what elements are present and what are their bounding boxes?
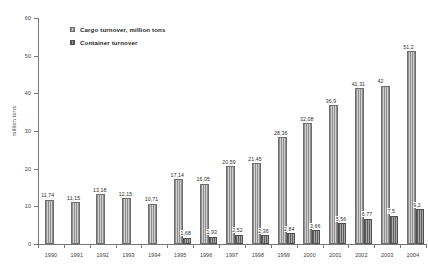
x-tick bbox=[167, 244, 168, 248]
container-bar bbox=[364, 219, 372, 245]
cargo-bar-value-label: 36,9 bbox=[325, 98, 337, 104]
container-bar-value-label: 9,2 bbox=[413, 202, 422, 208]
cargo-bar-value-label: 10,71 bbox=[144, 196, 158, 202]
bar-group: 427,5 bbox=[381, 18, 395, 244]
container-bar-value-label: 2,52 bbox=[232, 227, 244, 233]
cargo-bar-value-label: 11,74 bbox=[41, 192, 55, 198]
container-bar bbox=[261, 235, 269, 244]
bar-group: 32,083,66 bbox=[303, 18, 317, 244]
y-tick-label: 20 bbox=[0, 166, 31, 172]
bar-group: 41,316,77 bbox=[355, 18, 369, 244]
cargo-bar-value-label: 20,59 bbox=[222, 159, 236, 165]
x-tick-label: 2004 bbox=[396, 252, 428, 258]
x-tick bbox=[348, 244, 349, 248]
cargo-bar bbox=[355, 88, 364, 244]
x-tick bbox=[219, 244, 220, 248]
cargo-bar bbox=[71, 202, 80, 244]
y-axis-title: million tons bbox=[11, 91, 17, 151]
cargo-bar bbox=[148, 204, 157, 244]
cargo-bar-value-label: 13,18 bbox=[92, 187, 106, 193]
bar-group: 20,592,52 bbox=[226, 18, 240, 244]
cargo-bar-value-label: 28,36 bbox=[274, 130, 288, 136]
cargo-bar bbox=[96, 194, 105, 244]
x-tick bbox=[38, 244, 39, 248]
bar-group: 11,74 bbox=[45, 18, 59, 244]
cargo-bar-value-label: 42 bbox=[377, 78, 384, 84]
container-bar-value-label: 2,84 bbox=[284, 226, 296, 232]
bar-chart: 0102030405060 million tons Cargo turnove… bbox=[0, 0, 428, 272]
x-tick bbox=[116, 244, 117, 248]
cargo-bar-value-label: 11,15 bbox=[67, 195, 81, 201]
y-tick-label: 60 bbox=[0, 15, 31, 21]
container-bar bbox=[209, 237, 217, 244]
cargo-bar bbox=[381, 86, 390, 244]
x-tick bbox=[64, 244, 65, 248]
bar-group: 28,362,84 bbox=[278, 18, 292, 244]
bar-group: 10,71 bbox=[148, 18, 162, 244]
container-bar bbox=[338, 223, 346, 244]
container-bar bbox=[416, 209, 424, 244]
x-tick bbox=[426, 244, 427, 248]
plot-area: 11,7411,1513,1812,1510,7117,141,6816,051… bbox=[38, 18, 426, 244]
bar-group: 51,29,2 bbox=[407, 18, 421, 244]
cargo-bar-value-label: 12,15 bbox=[118, 191, 132, 197]
x-tick bbox=[193, 244, 194, 248]
x-tick bbox=[297, 244, 298, 248]
cargo-bar-value-label: 16,05 bbox=[196, 176, 210, 182]
container-bar-value-label: 1,93 bbox=[206, 229, 218, 235]
bar-group: 36,95,56 bbox=[329, 18, 343, 244]
cargo-bar bbox=[407, 51, 416, 244]
cargo-bar-value-label: 17,14 bbox=[170, 172, 184, 178]
container-bar-value-label: 3,66 bbox=[309, 223, 321, 229]
x-tick bbox=[271, 244, 272, 248]
container-bar-value-label: 6,77 bbox=[361, 211, 373, 217]
x-tick bbox=[90, 244, 91, 248]
bar-group: 13,18 bbox=[96, 18, 110, 244]
bar-group: 21,452,36 bbox=[252, 18, 266, 244]
cargo-bar-value-label: 51,2 bbox=[403, 44, 415, 50]
x-axis-line bbox=[38, 244, 426, 245]
container-bar bbox=[312, 230, 320, 244]
bar-group: 12,15 bbox=[122, 18, 136, 244]
y-tick-label: 10 bbox=[0, 203, 31, 209]
container-bar bbox=[390, 216, 398, 244]
container-bar-value-label: 2,36 bbox=[258, 228, 270, 234]
y-tick-label: 0 bbox=[0, 241, 31, 247]
cargo-bar-value-label: 21,45 bbox=[248, 156, 262, 162]
cargo-bar bbox=[45, 200, 54, 244]
container-bar bbox=[235, 235, 243, 244]
x-tick bbox=[400, 244, 401, 248]
cargo-bar bbox=[122, 198, 131, 244]
x-tick bbox=[323, 244, 324, 248]
x-tick bbox=[141, 244, 142, 248]
cargo-bar-value-label: 41,31 bbox=[351, 81, 365, 87]
bar-group: 17,141,68 bbox=[174, 18, 188, 244]
x-tick bbox=[245, 244, 246, 248]
bar-group: 11,15 bbox=[71, 18, 85, 244]
container-bar-value-label: 1,68 bbox=[180, 230, 192, 236]
y-tick-label: 50 bbox=[0, 53, 31, 59]
container-bar-value-label: 7,5 bbox=[387, 208, 396, 214]
container-bar-value-label: 5,56 bbox=[335, 216, 347, 222]
bar-group: 16,051,93 bbox=[200, 18, 214, 244]
container-bar bbox=[287, 233, 295, 244]
x-tick bbox=[374, 244, 375, 248]
cargo-bar-value-label: 32,08 bbox=[299, 116, 313, 122]
cargo-bar bbox=[329, 105, 338, 244]
